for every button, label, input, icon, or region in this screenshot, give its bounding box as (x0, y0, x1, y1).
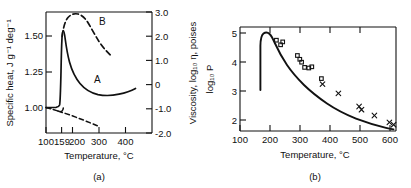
panel-a-ytick-125: 1.25 (25, 66, 44, 77)
panel-b-xtick-400: 400 (322, 134, 338, 145)
panel-a-baseline-dashed-tail (58, 111, 99, 127)
panel-b-ytick-2: 2 (232, 115, 237, 126)
panel-a-rtick-n20: -2.0 (155, 128, 171, 139)
panel-b-xtick-600: 600 (382, 134, 398, 145)
panel-b-square-markers (275, 38, 324, 80)
panel-b-xtick-100: 100 (232, 134, 248, 145)
panel-a-xtick-100: 100 (38, 136, 54, 147)
panel-a-xtick-159: 159 (54, 136, 70, 147)
panel-b-axes (240, 27, 396, 131)
panel-a-caption: (a) (93, 171, 105, 182)
panel-a-rtick-30: 3.0 (155, 7, 168, 18)
panel-a-yaxis-left-title: Specific heat, J g⁻¹ deg⁻¹ (4, 19, 15, 126)
panel-a-plot: 1.50 1.25 1.00 3.0 2.0 1.0 0 -1.0 -2.0 (0, 0, 206, 188)
panel-b-ytick-3: 3 (232, 86, 237, 97)
figure-container: 1.50 1.25 1.00 3.0 2.0 1.0 0 -1.0 -2.0 (0, 0, 411, 188)
panel-a-right-ticks (146, 12, 152, 133)
panel-b-ytick-5: 5 (232, 28, 237, 39)
panel-a-axes (46, 12, 152, 133)
panel-a-ytick-100: 1.00 (25, 102, 44, 113)
panel-b-yaxis-title: log₁₀ P (204, 65, 215, 94)
panel-a-xtick-200: 200 (69, 136, 85, 147)
panel-a-ytick-150: 1.50 (25, 30, 44, 41)
panel-b-xaxis-title: Temperature, °C (280, 149, 349, 160)
panel-a-yaxis-right-title: Viscosity, log₁₀ η, poises (187, 22, 198, 125)
panel-b-x-ticks (240, 125, 390, 131)
panel-b-y-ticks (240, 33, 246, 120)
panel-b-ytick-4: 4 (232, 57, 237, 68)
panel-b-xtick-200: 200 (262, 134, 278, 145)
panel-a-xaxis-title: Temperature, °C (64, 150, 133, 161)
panel-a-x-ticks (46, 127, 126, 133)
panel-a-rtick-10: 1.0 (155, 55, 168, 66)
panel-a-rtick-n10: -1.0 (155, 103, 171, 114)
panel-a: 1.50 1.25 1.00 3.0 2.0 1.0 0 -1.0 -2.0 (0, 0, 206, 188)
panel-a-curve-A (46, 31, 136, 108)
panel-b-xtick-300: 300 (292, 134, 308, 145)
panel-b-caption: (b) (309, 171, 321, 182)
panel-a-label-B: B (99, 16, 106, 27)
panel-a-xtick-300: 300 (91, 136, 107, 147)
panel-b-plot: 5 4 3 2 100 200 300 400 (200, 0, 411, 188)
panel-b-top-ticks (270, 27, 360, 33)
panel-b: 5 4 3 2 100 200 300 400 (200, 0, 411, 188)
panel-a-xtick-400: 400 (118, 136, 134, 147)
panel-a-rtick-0: 0 (155, 79, 160, 90)
panel-a-left-ticks (46, 36, 52, 108)
panel-b-xtick-500: 500 (352, 134, 368, 145)
panel-a-rtick-20: 2.0 (155, 31, 168, 42)
panel-a-label-A: A (94, 74, 101, 85)
